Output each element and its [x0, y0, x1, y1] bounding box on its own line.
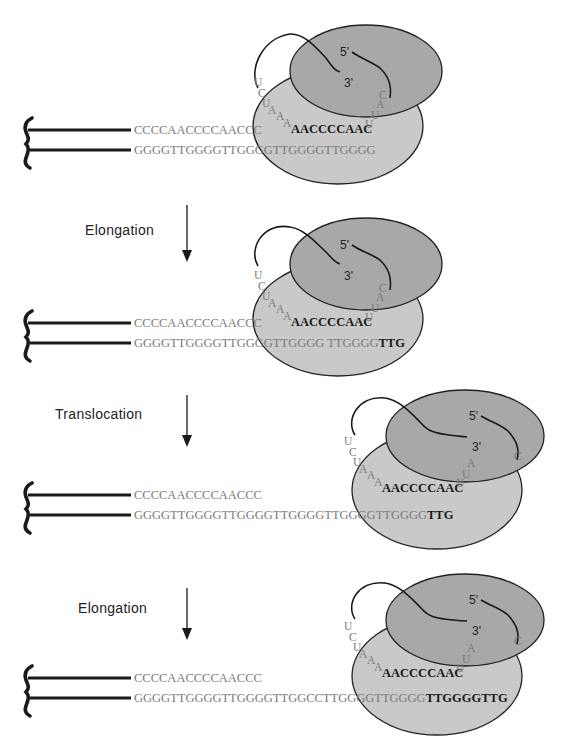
step-label: Elongation: [85, 222, 154, 238]
rna-template-core: AACCCCAAC: [291, 122, 372, 136]
rna-5prime-label: 5': [340, 45, 349, 59]
g-strand-new: TTG: [427, 508, 454, 522]
step-translocation: Translocation: [55, 395, 192, 447]
g-strand-sequence: GGGGTTGGGGTTGGGGTTGGGGTTGGGGTTGGGGTTG: [134, 508, 454, 522]
step-elongation-1: Elongation: [85, 205, 192, 262]
rna-5prime-label: 5': [469, 593, 478, 607]
telomerase-diagram: 5' 3' U C U A A A AACCCCAAC U U A C CCCC…: [0, 0, 568, 753]
g-strand-existing: GGGGTTGGGGTTGGGGTTGGGG TTGGGG: [134, 336, 379, 350]
rna-5prime-label: 5': [469, 409, 478, 423]
telomerase-complex: 5' 3' U C U A A A AACCCCAAC U U A C: [253, 25, 442, 184]
telomerase-small-subunit: [290, 218, 442, 310]
rna-base: C: [514, 450, 522, 462]
panel-2: 5' 3' U C U A A A AACCCCAAC U U A C CCCC…: [25, 218, 442, 376]
rna-template-core: AACCCCAAC: [291, 315, 372, 329]
g-strand-sequence: GGGGTTGGGGTTGGGGTTGGGG TTGGGGTTG: [134, 336, 405, 350]
rna-template-core: AACCCCAAC: [382, 666, 463, 680]
g-strand-existing: GGGGTTGGGGTTGGGGTTGGCCTTGGGGTTGGGG: [134, 691, 426, 705]
rna-base: C: [514, 635, 522, 647]
step-label: Elongation: [78, 600, 147, 616]
chromosome-bracket-icon: [25, 483, 32, 533]
chromosome-bracket-icon: [25, 118, 32, 168]
rna-base: U: [462, 653, 471, 665]
panel-1: 5' 3' U C U A A A AACCCCAAC U U A C CCCC…: [25, 25, 442, 184]
c-strand-sequence: CCCCAACCCCAACCC: [134, 316, 262, 330]
g-strand-new: TTGGGGTTG: [426, 691, 508, 705]
rna-3prime-label: 3': [344, 269, 353, 283]
chromosome-bracket-icon: [25, 666, 32, 716]
c-strand-sequence: CCCCAACCCCAACCC: [134, 671, 262, 685]
rna-3prime-label: 3': [344, 76, 353, 90]
rna-base: C: [379, 89, 387, 101]
panel-4: 5' 3' U C U A A A AACCCCAAC U U A C CCCC…: [25, 574, 544, 735]
g-strand-existing: GGGGTTGGGGTTGGGGTTGGGGTTGGGG: [134, 143, 376, 157]
arrow-head-icon: [182, 435, 192, 447]
telomerase-complex: 5' 3' U C U A A A AACCCCAAC U U A C: [253, 218, 442, 376]
rna-5prime-label: 5': [340, 238, 349, 252]
arrow-head-icon: [182, 628, 192, 640]
g-strand-new: TTG: [379, 336, 406, 350]
rna-base: U: [371, 109, 380, 121]
rna-base: U: [462, 468, 471, 480]
rna-base: U: [371, 302, 380, 314]
telomerase-complex: 5' 3' U C U A A A AACCCCAAC U U A C: [344, 390, 544, 549]
rna-base: A: [467, 457, 476, 469]
chromosome-bracket-icon: [25, 311, 32, 361]
rna-3prime-label: 3': [472, 624, 481, 638]
rna-base: A: [467, 642, 476, 654]
g-strand-existing: GGGGTTGGGGTTGGGGTTGGGGTTGGGGTTGGGG: [134, 508, 427, 522]
step-elongation-2: Elongation: [78, 588, 192, 640]
rna-template-core: AACCCCAAC: [382, 481, 463, 495]
rna-3prime-label: 3': [472, 440, 481, 454]
c-strand-sequence: CCCCAACCCCAACCC: [134, 123, 262, 137]
step-label: Translocation: [55, 406, 142, 422]
telomerase-small-subunit: [290, 25, 442, 117]
c-strand-sequence: CCCCAACCCCAACCC: [134, 488, 262, 502]
arrow-head-icon: [182, 250, 192, 262]
g-strand-sequence: GGGGTTGGGGTTGGGGTTGGGGTTGGGG: [134, 143, 376, 157]
rna-base: C: [379, 282, 387, 294]
g-strand-sequence: GGGGTTGGGGTTGGGGTTGGCCTTGGGGTTGGGGTTGGGG…: [134, 691, 508, 705]
telomerase-complex: 5' 3' U C U A A A AACCCCAAC U U A C: [344, 574, 544, 735]
